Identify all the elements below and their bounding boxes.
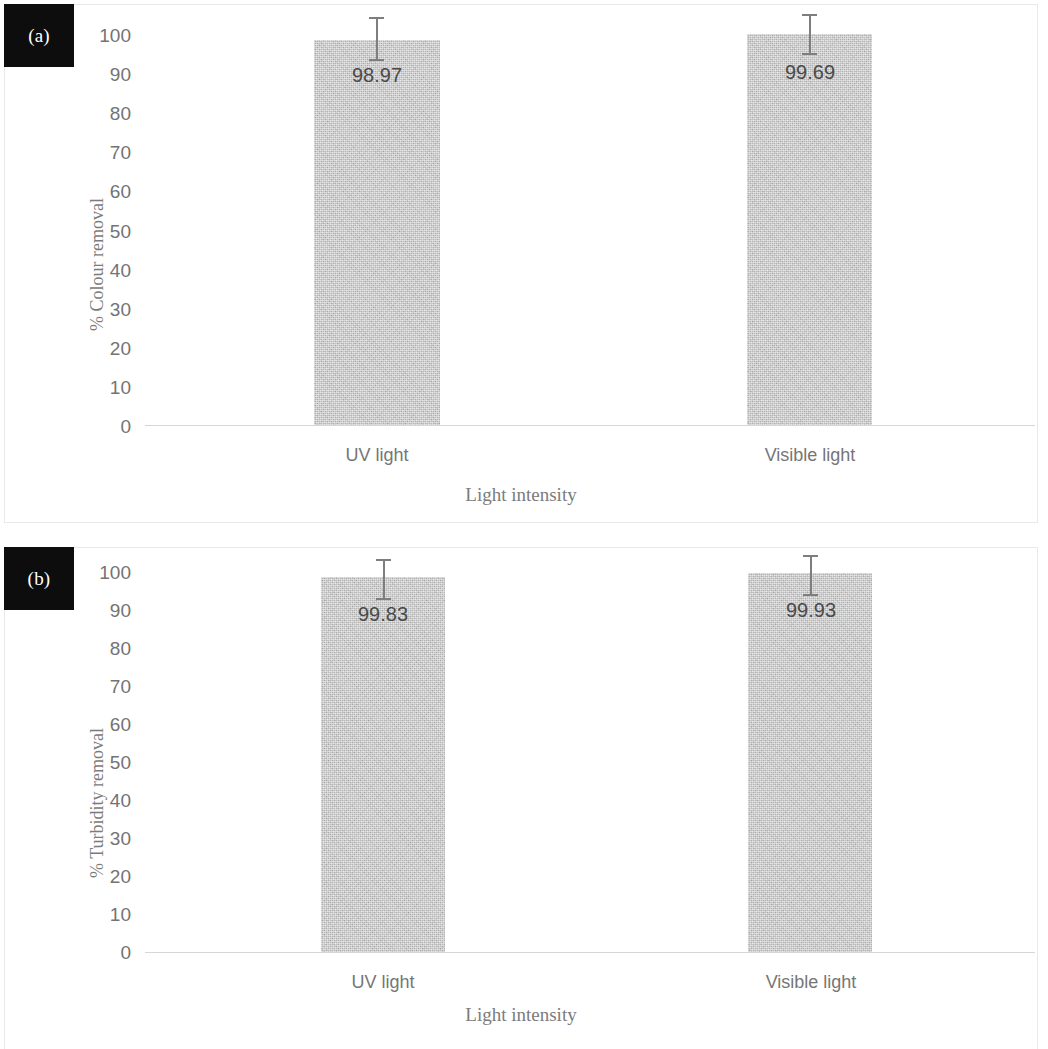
y-tick-label: 50 (75, 222, 131, 241)
y-tick-label: 70 (75, 677, 131, 696)
error-bar-cap-bottom (376, 598, 391, 600)
y-tick-label: 10 (75, 378, 131, 397)
x-tick-label-uv-light-b: UV light (351, 972, 414, 993)
error-bar-visible-light-b (803, 555, 818, 596)
error-bar-stem (383, 559, 385, 600)
bar-value-label-uv-light-b: 99.83 (358, 603, 408, 626)
y-tick-label: 90 (75, 601, 131, 620)
panel-label-b: (b) (4, 547, 74, 610)
x-tick-label-visible-light-a: Visible light (765, 445, 856, 466)
error-bar-uv-light-a (369, 17, 384, 61)
bar-value-label-visible-light-a: 99.69 (785, 61, 835, 84)
error-bar-cap-bottom (803, 594, 818, 596)
y-tick-label: 70 (75, 143, 131, 162)
error-bar-cap-top (802, 14, 817, 16)
y-tick-label: 40 (75, 791, 131, 810)
y-tick-label: 30 (75, 300, 131, 319)
error-bar-cap-bottom (369, 59, 384, 61)
y-tick-label: 10 (75, 905, 131, 924)
error-bar-cap-bottom (802, 53, 817, 55)
error-bar-stem (810, 555, 812, 596)
error-bar-stem (809, 14, 811, 55)
error-bar-visible-light-a (802, 14, 817, 55)
error-bar-stem (376, 17, 378, 61)
y-tick-label: 30 (75, 829, 131, 848)
x-tick-label-visible-light-b: Visible light (766, 972, 857, 993)
error-bar-cap-top (376, 559, 391, 561)
y-tick-label: 100 (75, 26, 131, 45)
y-tick-label: 60 (75, 182, 131, 201)
x-axis-title-a: Light intensity (5, 484, 1037, 506)
y-tick-label: 40 (75, 261, 131, 280)
bar-uv-light-b[interactable] (321, 577, 445, 952)
y-tick-label: 50 (75, 753, 131, 772)
plot-area-a: % Colour removal 100 90 80 70 60 50 40 3… (5, 5, 1037, 522)
bar-uv-light-a[interactable] (314, 40, 440, 425)
y-tick-label: 20 (75, 867, 131, 886)
y-tick-label: 60 (75, 715, 131, 734)
bar-visible-light-a[interactable] (747, 34, 872, 425)
y-tick-label: 0 (75, 417, 131, 436)
error-bar-cap-top (369, 17, 384, 19)
x-axis-title-b: Light intensity (5, 1004, 1037, 1026)
y-tick-label: 80 (75, 639, 131, 658)
chart-panel-b: (b) % Turbidity removal 100 90 80 70 60 … (4, 547, 1038, 1049)
y-tick-label: 100 (75, 563, 131, 582)
bar-visible-light-b[interactable] (748, 573, 872, 952)
panel-label-a: (a) (4, 4, 74, 67)
bar-value-label-visible-light-b: 99.93 (786, 599, 836, 622)
y-tick-label: 0 (75, 943, 131, 962)
y-tick-label: 80 (75, 104, 131, 123)
error-bar-cap-top (803, 555, 818, 557)
y-tick-label: 90 (75, 65, 131, 84)
bar-value-label-uv-light-a: 98.97 (352, 64, 402, 87)
error-bar-uv-light-b (376, 559, 391, 600)
chart-panel-a: (a) % Colour removal 100 90 80 70 60 50 … (4, 4, 1038, 523)
plot-area-b: % Turbidity removal 100 90 80 70 60 50 4… (5, 548, 1037, 1049)
x-tick-label-uv-light-a: UV light (345, 445, 408, 466)
y-tick-label: 20 (75, 339, 131, 358)
x-axis-line-b (145, 952, 1035, 953)
x-axis-line-a (145, 425, 1035, 426)
